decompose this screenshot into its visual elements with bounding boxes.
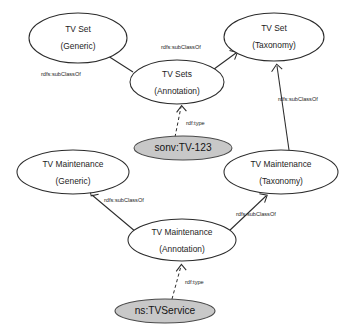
edge-label-subclassof-3: rdfs:subClassOf [278, 96, 318, 102]
node-tv-set-taxonomy[interactable]: TV Set (Taxonomy) [224, 13, 324, 61]
node-label-line2: (Annotation) [154, 86, 200, 96]
node-ns-tvservice[interactable]: ns:TVService [115, 299, 215, 323]
arrow-head-icon [177, 106, 187, 113]
node-ellipse[interactable] [130, 60, 224, 104]
node-ellipse[interactable] [224, 150, 338, 194]
node-label-line1: TV Set [65, 24, 91, 34]
edge-label-rdftype-1: rdf:type [186, 120, 205, 126]
edge-subclassof-tvmaintenancetaxonomy-to-tvsettaxonomy: rdfs:subClassOf [272, 64, 319, 150]
node-label-line1: TV Sets [162, 69, 192, 79]
node-label-line2: (Generic) [56, 176, 91, 186]
node-ellipse[interactable] [128, 219, 236, 261]
edge-label-subclassof-2: rdfs:subClassOf [161, 44, 201, 50]
node-label-line2: (Taxonomy) [259, 176, 303, 186]
node-label-line1: sonv:TV-123 [154, 142, 212, 153]
edge-rdftype-sonv-to-tvsets: rdf:type [175, 106, 205, 137]
node-label-line1: ns:TVService [135, 305, 196, 316]
node-label-line1: TV Set [261, 23, 287, 33]
node-ellipse[interactable] [224, 13, 324, 61]
edge-line [277, 66, 289, 150]
node-ellipse[interactable] [29, 13, 127, 63]
node-layer: TV Set (Generic) TV Set (Taxonomy) TV Se… [17, 13, 338, 323]
edge-line [108, 56, 133, 72]
edge-subclassof-tvmannotation-to-tvmgeneric: rdfs:subClassOf [90, 188, 145, 232]
node-label-line1: TV Maintenance [152, 227, 213, 237]
edge-rdftype-nstvservice-to-tvmannotation: rdf:type [172, 264, 204, 299]
node-tv-maintenance-taxonomy[interactable]: TV Maintenance (Taxonomy) [224, 150, 338, 194]
diagram-svg: rdfs:subClassOf rdfs:subClassOf rdf:type… [0, 0, 351, 329]
node-label-line1: TV Maintenance [251, 159, 312, 169]
node-ellipse[interactable] [17, 150, 129, 194]
node-sonv-tv-123[interactable]: sonv:TV-123 [134, 136, 232, 160]
edge-label-rdftype-2: rdf:type [185, 279, 204, 285]
edge-line [175, 107, 181, 137]
edge-label-subclassof-4: rdfs:subClassOf [104, 197, 144, 203]
edge-subclassof-tvmannotation-to-tvmtaxonomy: rdfs:subClassOf [228, 194, 276, 232]
node-tv-sets-annotation[interactable]: TV Sets (Annotation) [130, 60, 224, 104]
arrow-head-icon [176, 264, 186, 271]
node-tv-set-generic[interactable]: TV Set (Generic) [29, 13, 127, 63]
node-label-line1: TV Maintenance [43, 159, 104, 169]
node-label-line2: (Annotation) [159, 244, 205, 254]
rdf-diagram-canvas: rdfs:subClassOf rdfs:subClassOf rdf:type… [0, 0, 351, 329]
node-label-line2: (Generic) [61, 41, 96, 51]
edge-label-subclassof-1: rdfs:subClassOf [41, 71, 81, 77]
node-tv-maintenance-generic[interactable]: TV Maintenance (Generic) [17, 150, 129, 194]
node-tv-maintenance-annotation[interactable]: TV Maintenance (Annotation) [128, 219, 236, 261]
edge-label-subclassof-5: rdfs:subClassOf [236, 211, 276, 217]
node-label-line2: (Taxonomy) [252, 40, 296, 50]
